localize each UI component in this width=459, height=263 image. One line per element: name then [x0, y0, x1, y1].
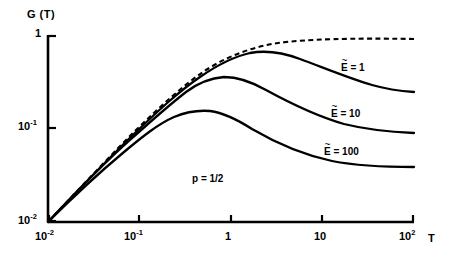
y-tick-label-10e-2: 10-2 — [18, 215, 37, 226]
e-tilde-symbol: ~E — [324, 147, 331, 157]
y-tick-label-1: 1 — [35, 28, 41, 39]
figure-container: G (T) 1 10-1 10-2 10-2 10-1 1 10 102 T ~… — [0, 0, 459, 263]
x-tick-label-10e2-base: 10 — [399, 230, 411, 242]
curve-label-e-tilde-1-value: = 1 — [348, 62, 365, 73]
tilde-accent-icon: ~ — [324, 140, 331, 150]
x-tick-label-10e-2-exp: -2 — [47, 228, 54, 237]
x-tick-label-10e-2-base: 10 — [35, 230, 47, 242]
p-annotation: p = 1/2 — [192, 174, 223, 184]
y-tick-label-10e-1-exp: -1 — [30, 118, 37, 127]
curve-e-tilde-10 — [48, 77, 414, 222]
curve-label-e-tilde-100: ~E = 100 — [324, 147, 359, 157]
x-tick-label-10e2-exp: 2 — [411, 228, 415, 237]
curve-label-e-tilde-1: ~E = 1 — [341, 63, 365, 73]
tilde-accent-icon: ~ — [341, 56, 348, 66]
x-tick-label-10: 10 — [314, 231, 326, 242]
x-tick-label-10e-1-base: 10 — [124, 230, 136, 242]
x-tick-label-10e-1: 10-1 — [124, 231, 143, 242]
e-tilde-symbol: ~E — [341, 63, 348, 73]
y-axis-title: G (T) — [27, 9, 55, 20]
e-tilde-symbol: ~E — [331, 109, 338, 119]
y-tick-label-10e-1-base: 10 — [18, 120, 30, 132]
x-tick-label-1: 1 — [225, 231, 231, 242]
x-tick-label-10e-1-exp: -1 — [136, 228, 143, 237]
x-tick-label-10e-2: 10-2 — [35, 231, 54, 242]
curve-label-e-tilde-10: ~E = 10 — [331, 109, 360, 119]
curve-label-e-tilde-10-value: = 10 — [338, 108, 361, 119]
y-tick-label-10e-2-base: 10 — [18, 214, 30, 226]
tilde-accent-icon: ~ — [331, 102, 338, 112]
y-tick-label-10e-2-exp: -2 — [30, 212, 37, 221]
curve-label-e-tilde-100-value: = 100 — [331, 146, 359, 157]
plot-area — [0, 0, 459, 263]
y-tick-label-10e-1: 10-1 — [18, 121, 37, 132]
x-axis-title: T — [428, 233, 435, 244]
x-tick-label-10e2: 102 — [399, 231, 415, 242]
